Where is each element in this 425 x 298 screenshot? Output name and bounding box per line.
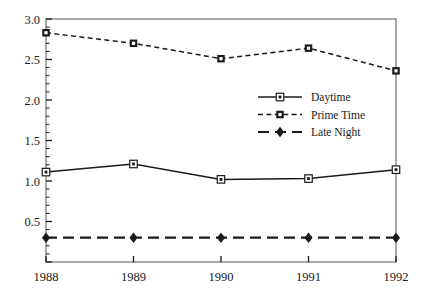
line-chart: 3.02.52.01.51.00.5 19881989199019911992 … — [0, 0, 425, 298]
legend-label: Late Night — [311, 126, 361, 139]
x-axis-tick-label: 1988 — [34, 270, 59, 284]
data-point-marker — [276, 93, 284, 101]
chart-background — [0, 0, 425, 298]
data-point-marker — [392, 67, 400, 75]
y-axis-tick-label: 3.0 — [24, 13, 40, 27]
y-axis-tick-label: 1.0 — [24, 175, 40, 189]
data-point-marker — [42, 29, 50, 37]
data-point-marker — [305, 44, 313, 52]
data-point-marker — [217, 55, 225, 63]
data-point-marker — [130, 160, 138, 168]
data-point-marker — [217, 176, 225, 184]
x-axis-tick-label: 1991 — [296, 270, 321, 284]
data-point-marker — [392, 166, 400, 174]
data-point-marker — [276, 111, 284, 119]
chart-container: 3.02.52.01.51.00.5 19881989199019911992 … — [0, 0, 425, 298]
x-axis-tick-label: 1989 — [121, 270, 146, 284]
y-axis-tick-label: 2.5 — [24, 53, 40, 67]
x-axis-tick-label: 1990 — [209, 270, 234, 284]
y-axis-tick-label: 2.0 — [24, 94, 40, 108]
x-axis-tick-label: 1992 — [384, 270, 409, 284]
legend-label: Daytime — [311, 91, 351, 104]
data-point-marker — [305, 175, 313, 183]
legend-label: Prime Time — [311, 109, 365, 121]
y-axis-tick-label: 0.5 — [24, 215, 40, 229]
data-point-marker — [130, 40, 138, 48]
y-axis-tick-label: 1.5 — [24, 134, 40, 148]
data-point-marker — [42, 168, 50, 176]
